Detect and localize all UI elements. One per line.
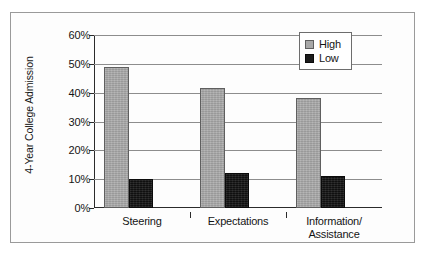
- gridline: [94, 122, 382, 123]
- x-axis-tick-label: Steering: [94, 215, 190, 228]
- y-axis-tick: [89, 150, 94, 151]
- x-axis-tick-label-line: Information/: [286, 215, 382, 228]
- x-axis-tick-label: Expectations: [190, 215, 286, 228]
- bar-high-1: [200, 88, 224, 208]
- chart-legend: High Low: [299, 32, 352, 70]
- y-axis-tick-label: 0%: [75, 202, 91, 214]
- legend-entry-low: Low: [305, 51, 346, 65]
- y-axis-tick: [89, 208, 94, 209]
- y-axis-tick: [89, 93, 94, 94]
- y-axis-tick-label: 60%: [69, 29, 90, 41]
- black-swatch-icon: [305, 54, 314, 63]
- bar-low-2: [321, 176, 345, 208]
- x-axis-tick-label: Information/Assistance: [286, 215, 382, 241]
- bar-low-1: [225, 173, 249, 208]
- y-axis-tick: [89, 122, 94, 123]
- x-axis-tick-label-line: Steering: [94, 215, 190, 228]
- x-axis-tick-labels: SteeringExpectationsInformation/Assistan…: [94, 212, 382, 254]
- gridline: [94, 93, 382, 94]
- gridline: [94, 150, 382, 151]
- y-axis-tick-labels: 0%10%20%30%40%50%60%: [49, 35, 90, 208]
- bar-low-0: [129, 179, 153, 208]
- y-axis-tick-label: 50%: [69, 58, 90, 70]
- chart-figure: 4-Year College Admission 0%10%20%30%40%5…: [10, 12, 415, 243]
- y-axis-tick-label: 10%: [69, 173, 90, 185]
- bar-high-2: [296, 98, 320, 208]
- legend-label-low: Low: [319, 52, 339, 64]
- y-axis-tick-label: 30%: [69, 116, 90, 128]
- gray-swatch-icon: [305, 40, 314, 49]
- y-axis-tick: [89, 64, 94, 65]
- x-axis-tick-label-line: Expectations: [190, 215, 286, 228]
- y-axis-tick-label: 20%: [69, 144, 90, 156]
- legend-label-high: High: [319, 38, 341, 50]
- y-axis-tick: [89, 35, 94, 36]
- y-axis-tick: [89, 179, 94, 180]
- y-axis-title: 4-Year College Admission: [23, 35, 35, 195]
- legend-entry-high: High: [305, 37, 346, 51]
- x-axis-tick-label-line: Assistance: [286, 228, 382, 241]
- bar-high-0: [104, 67, 128, 208]
- y-axis-tick-label: 40%: [69, 87, 90, 99]
